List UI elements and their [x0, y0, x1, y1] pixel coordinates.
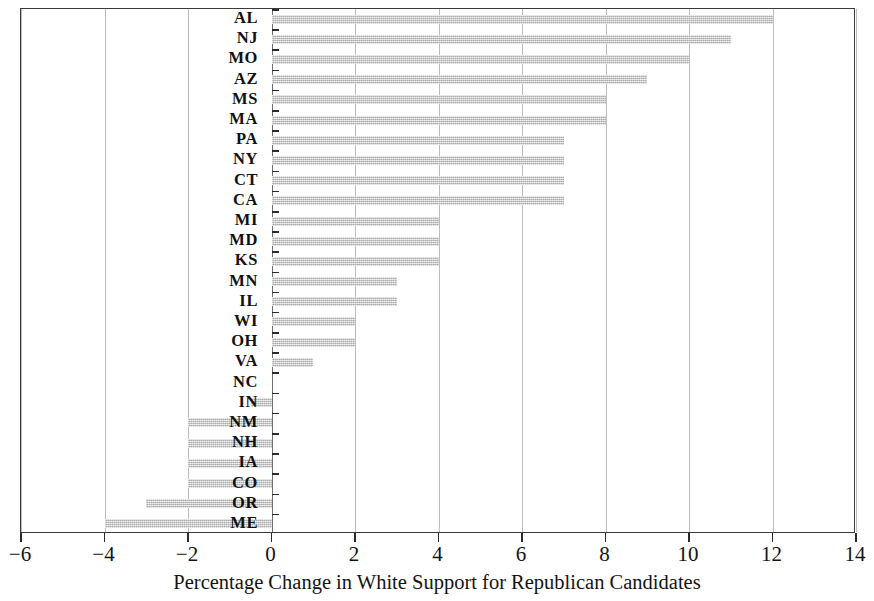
category-tick	[272, 312, 279, 314]
x-axis-tick	[688, 533, 690, 542]
bar	[272, 136, 564, 145]
x-axis-tick-label: −4	[74, 544, 134, 565]
category-tick	[272, 171, 279, 173]
x-axis-tick	[104, 533, 106, 542]
category-tick	[272, 211, 279, 213]
category-tick	[272, 191, 279, 193]
bar-chart-figure: ALNJMOAZMSMAPANYCTCAMIMDKSMNILWIOHVANCIN…	[0, 0, 874, 601]
category-tick	[272, 372, 279, 374]
x-axis-tick	[354, 533, 356, 542]
bar	[272, 35, 731, 44]
bar	[188, 479, 272, 488]
x-axis-tick-label: −6	[0, 544, 50, 565]
category-tick	[272, 494, 279, 496]
bar	[188, 459, 272, 468]
bar	[272, 217, 439, 226]
bar	[146, 499, 271, 508]
bar	[272, 156, 564, 165]
category-tick	[272, 272, 279, 274]
x-axis-tick-label: −2	[157, 544, 217, 565]
x-axis-tick	[271, 533, 273, 542]
category-tick	[272, 292, 279, 294]
bar	[272, 317, 356, 326]
x-axis-tick-label: 14	[825, 544, 874, 565]
bar	[272, 75, 648, 84]
bar	[105, 519, 272, 528]
category-tick	[272, 352, 279, 354]
bar	[188, 439, 272, 448]
x-axis-tick	[772, 533, 774, 542]
bar	[272, 15, 773, 24]
bar	[272, 277, 397, 286]
x-axis-tick	[855, 533, 857, 542]
x-axis-tick-label: 0	[241, 544, 301, 565]
x-axis-tick-label: 4	[408, 544, 468, 565]
category-tick	[272, 110, 279, 112]
category-tick	[272, 9, 279, 11]
bar	[272, 116, 606, 125]
bar	[272, 95, 606, 104]
category-tick	[272, 150, 279, 152]
x-axis-title: Percentage Change in White Support for R…	[0, 572, 874, 593]
category-tick	[272, 332, 279, 334]
x-axis-tick-label: 8	[575, 544, 635, 565]
category-tick	[272, 393, 279, 395]
x-axis-tick	[438, 533, 440, 542]
x-axis-tick	[187, 533, 189, 542]
x-axis-tick-label: 6	[491, 544, 551, 565]
category-tick	[272, 433, 279, 435]
category-tick	[272, 70, 279, 72]
gridline	[856, 9, 857, 532]
x-axis-tick	[521, 533, 523, 542]
x-axis-tick	[20, 533, 22, 542]
bar	[272, 237, 439, 246]
category-tick	[272, 90, 279, 92]
bar	[272, 196, 564, 205]
bar	[188, 418, 272, 427]
x-axis-tick	[605, 533, 607, 542]
category-tick	[272, 29, 279, 31]
category-tick	[272, 130, 279, 132]
x-axis-tick-label: 2	[324, 544, 384, 565]
bar	[272, 358, 314, 367]
bars-layer	[21, 9, 854, 532]
bar	[272, 55, 690, 64]
x-axis-tick-label: 12	[742, 544, 802, 565]
bar	[272, 176, 564, 185]
plot-area	[20, 8, 855, 533]
category-tick	[272, 514, 279, 516]
category-tick	[272, 453, 279, 455]
bar	[272, 297, 397, 306]
bar	[272, 257, 439, 266]
category-tick	[272, 413, 279, 415]
bar	[251, 398, 272, 407]
category-tick	[272, 49, 279, 51]
category-tick	[272, 473, 279, 475]
x-axis-tick-label: 10	[658, 544, 718, 565]
bar	[272, 338, 356, 347]
category-tick	[272, 251, 279, 253]
category-tick	[272, 231, 279, 233]
